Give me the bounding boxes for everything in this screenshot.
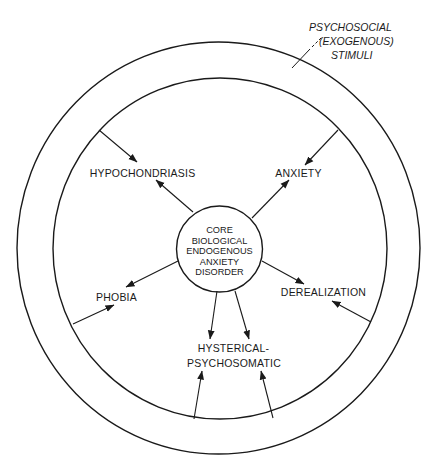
node-hysterical-line1: HYSTERICAL-	[198, 342, 270, 354]
stimuli-label-line3: STIMULI	[331, 49, 373, 61]
node-hypochondriasis: HYPOCHONDRIASIS	[90, 167, 196, 179]
arrow-core-to-derealization	[262, 261, 304, 284]
anxiety-model-diagram: PSYCHOSOCIAL (EXOGENOUS) STIMULI CORE BI…	[0, 0, 437, 472]
arrow-ring-to-hysterical-left	[194, 371, 202, 419]
node-anxiety: ANXIETY	[275, 167, 321, 179]
arrow-core-to-hysterical-left	[210, 291, 217, 339]
node-derealization: DEREALIZATION	[281, 286, 366, 298]
arrow-core-to-hypochondriasis	[156, 180, 193, 212]
arrow-ring-to-anxiety	[305, 130, 338, 165]
arrow-ring-to-hysterical-right	[261, 371, 273, 418]
core-label-line3: ENDOGENOUS	[186, 246, 252, 256]
core-label-line2: BIOLOGICAL	[192, 236, 248, 246]
core-label-line5: DISORDER	[195, 267, 244, 277]
arrow-core-to-phobia	[126, 261, 178, 287]
core-label-line4: ANXIETY	[200, 257, 239, 267]
stimuli-leader-line	[292, 49, 310, 68]
node-phobia: PHOBIA	[96, 291, 137, 303]
arrow-ring-to-hypochondriasis	[99, 130, 137, 162]
arrow-core-to-anxiety	[252, 180, 289, 218]
node-hysterical-line2: PSYCHOSOMATIC	[187, 357, 281, 369]
arrow-core-to-hysterical-right	[235, 291, 249, 339]
stimuli-label-line1: PSYCHOSOCIAL	[309, 21, 392, 33]
core-label-line1: CORE	[206, 225, 233, 235]
arrow-ring-to-phobia	[73, 305, 114, 324]
arrow-ring-to-derealization	[332, 301, 371, 322]
stimuli-label-line2: (EXOGENOUS)	[319, 35, 394, 47]
